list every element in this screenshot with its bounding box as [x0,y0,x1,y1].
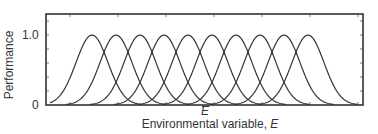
y-axis-label: Performance [1,30,17,100]
performance-curve [50,35,141,104]
axis-ticks [46,14,363,105]
performance-curve [234,35,333,104]
performance-curve [66,35,165,104]
performance-chart [0,0,378,134]
performance-curve [210,35,309,104]
y-tick-1: 1.0 [22,28,39,42]
performance-curve [90,35,189,104]
performance-curve [162,35,261,104]
x-axis-label: Environmental variable, E [100,117,320,131]
mean-environment-marker: E [198,104,212,118]
performance-curves [50,35,357,104]
performance-curve [186,35,285,104]
plot-frame [46,14,363,105]
performance-curve [258,35,357,104]
performance-curve [114,35,213,104]
y-tick-0: 0 [32,98,39,112]
performance-curve [138,35,237,104]
